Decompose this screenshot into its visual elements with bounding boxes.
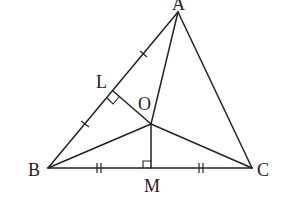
triangle-diagram: A B C O L M xyxy=(0,0,293,207)
right-angle-mark-m xyxy=(143,161,151,168)
label-o: O xyxy=(138,94,151,114)
right-angle-mark-l xyxy=(107,97,119,104)
label-m: M xyxy=(144,176,160,196)
segment-ob xyxy=(48,124,151,168)
label-b: B xyxy=(28,160,40,180)
segment-ca xyxy=(178,12,252,168)
label-a: A xyxy=(172,0,185,14)
label-l: L xyxy=(96,72,107,92)
segment-oc xyxy=(151,124,252,168)
label-c: C xyxy=(257,160,269,180)
